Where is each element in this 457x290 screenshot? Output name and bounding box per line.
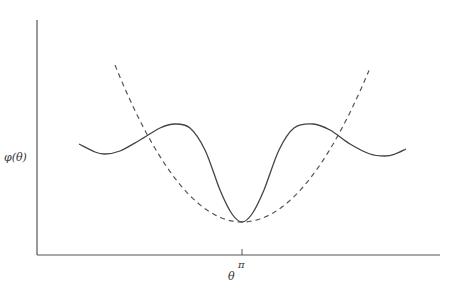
x-axis: [37, 249, 440, 255]
parabola-dashed-line: [115, 65, 369, 222]
x-axis-label: θ: [228, 270, 235, 283]
x-tick-label-pi: π: [238, 259, 245, 270]
phi-solid-line: [79, 124, 406, 222]
y-axis-label: φ(θ): [4, 151, 27, 164]
chart-canvas: [0, 0, 457, 290]
